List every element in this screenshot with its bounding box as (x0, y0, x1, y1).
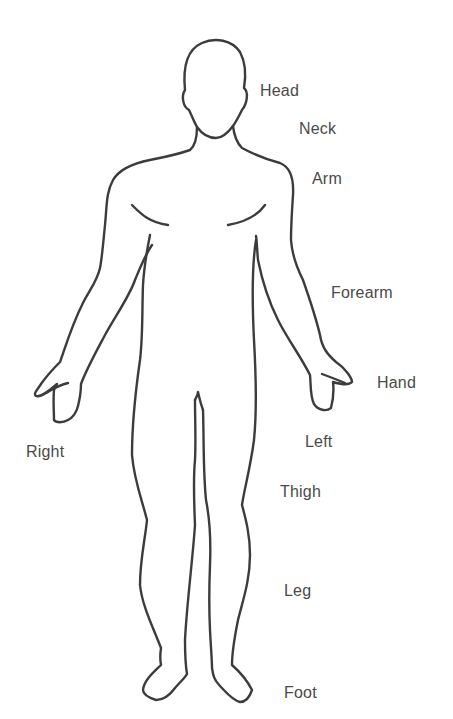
body-outline (0, 0, 453, 719)
label-foot: Foot (284, 685, 317, 701)
right-torso-side (132, 235, 195, 700)
label-head: Head (260, 83, 299, 99)
label-hand: Hand (377, 375, 416, 391)
torso-right-outline (35, 127, 197, 422)
left-leg-outline (203, 240, 256, 702)
label-arm: Arm (312, 171, 342, 187)
label-right: Right (26, 444, 64, 460)
label-thigh: Thigh (280, 484, 321, 500)
label-left: Left (305, 434, 333, 450)
right-chest-line (132, 205, 168, 225)
torso-left-outline (233, 126, 352, 410)
label-neck: Neck (299, 121, 336, 137)
label-forearm: Forearm (331, 285, 393, 301)
head-outline (183, 40, 247, 138)
left-chest-line (228, 205, 265, 225)
label-leg: Leg (284, 583, 311, 599)
